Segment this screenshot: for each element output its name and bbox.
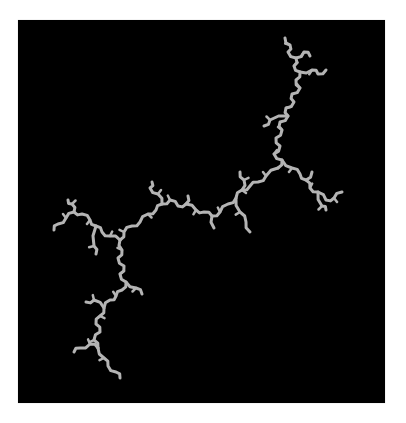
fractal-twig (120, 230, 125, 232)
fractal-twig (113, 292, 116, 296)
fractal-twig (100, 316, 105, 318)
fractal-twig (88, 339, 90, 344)
fractal-center-side-2 (236, 198, 250, 232)
fractal-right-side-2 (306, 172, 312, 180)
fractal-lower-side-1 (126, 282, 142, 294)
fractal-twig (120, 271, 124, 274)
fractal-center-side-5 (186, 196, 189, 204)
fractal-left-side-2 (93, 226, 97, 254)
fractal-twig (63, 214, 66, 218)
fractal-twig (89, 246, 94, 247)
fractal-image (18, 20, 385, 403)
fractal-twig (87, 220, 90, 224)
fractal-twig (236, 212, 240, 215)
fractal-lower-tail (74, 344, 98, 352)
fractal-twig (334, 198, 337, 202)
fractal-twig (286, 107, 291, 108)
fractal-lower-side-2 (86, 300, 104, 308)
fractal-twig (168, 196, 170, 201)
fractal-canvas (18, 20, 385, 403)
fractal-twig (218, 208, 220, 213)
fractal-twig (285, 44, 290, 45)
fractal-lower-branch (94, 240, 126, 348)
dendrite-fractal (54, 38, 342, 378)
fractal-twig (244, 178, 249, 180)
fractal-twig (319, 206, 323, 210)
fractal-twig (93, 295, 94, 300)
fractal-center-branch (120, 168, 278, 240)
fractal-right-branch (282, 160, 342, 201)
fractal-twig (100, 358, 105, 360)
fractal-twig (263, 172, 266, 176)
fractal-lower-tail-2 (98, 348, 120, 378)
fractal-center-side-3 (211, 216, 214, 228)
fractal-twig (193, 210, 196, 214)
fractal-twig (72, 201, 76, 205)
fractal-twig (158, 190, 161, 194)
fractal-twig (267, 117, 271, 121)
